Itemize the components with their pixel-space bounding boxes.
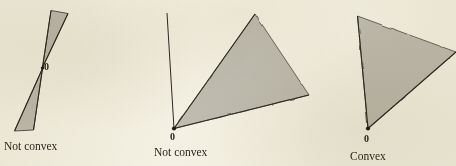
origin-label-panel-2: 0 (170, 132, 175, 142)
origin-label-panel-3: 0 (364, 134, 369, 144)
vertical-ray-panel-2 (167, 13, 174, 129)
caption-panel-3: Convex (350, 150, 386, 163)
solid-cone-region-panel-3 (358, 16, 456, 129)
origin-label-panel-1: 0 (44, 62, 49, 72)
caption-panel-2: Not convex (154, 146, 207, 159)
cones-diagram (0, 0, 456, 166)
caption-panel-1: Not convex (4, 140, 57, 153)
origin-point-panel-3 (366, 126, 370, 130)
panel-bowtie-shapes (15, 11, 69, 132)
panel-convex-cone-shapes (358, 16, 456, 129)
panel-ray-plus-cone-shapes (167, 13, 309, 129)
figure-container: 0 0 0 Not convex Not convex Convex (0, 0, 456, 166)
origin-point-panel-2 (172, 126, 176, 130)
